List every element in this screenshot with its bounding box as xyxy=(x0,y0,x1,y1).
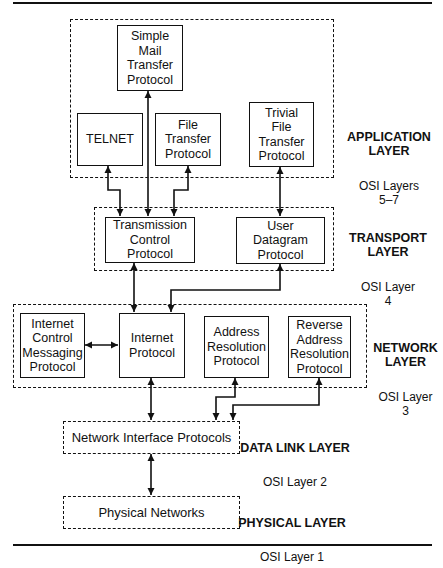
application-layer-osi: OSI Layers 5–7 xyxy=(336,179,442,207)
udp-node: User Datagram Protocol xyxy=(236,217,325,264)
network-layer-label: NETWORK LAYER OSI Layer 3 xyxy=(368,323,443,436)
ftp-node: File Transfer Protocol xyxy=(155,113,221,166)
tcp-node: Transmission Control Protocol xyxy=(105,217,195,263)
physical-networks-label: Physical Networks xyxy=(98,505,204,520)
physical-layer-title: PHYSICAL LAYER xyxy=(238,516,346,530)
network-layer-osi: OSI Layer 3 xyxy=(368,390,443,418)
datalink-layer-title: DATA LINK LAYER xyxy=(240,441,350,455)
network-layer-title: NETWORK LAYER xyxy=(368,341,443,369)
datalink-layer-label: DATA LINK LAYER OSI Layer 2 xyxy=(240,423,350,507)
datalink-layer-osi: OSI Layer 2 xyxy=(240,475,350,489)
physical-layer-osi: OSI Layer 1 xyxy=(238,550,346,564)
application-layer-label: APPLICATION LAYER OSI Layers 5–7 xyxy=(336,112,442,225)
transport-layer-osi: OSI Layer 4 xyxy=(334,280,442,308)
arp-node: Address Resolution Protocol xyxy=(204,316,269,378)
smtp-node: Simple Mail Transfer Protocol xyxy=(117,25,183,91)
ip-node: Internet Protocol xyxy=(119,313,185,378)
telnet-node: TELNET xyxy=(77,113,143,166)
transport-layer-label: TRANSPORT LAYER OSI Layer 4 xyxy=(334,213,442,326)
transport-layer-title: TRANSPORT LAYER xyxy=(334,231,442,259)
network-interface-protocols-node: Network Interface Protocols xyxy=(63,421,240,454)
physical-networks-node: Physical Networks xyxy=(63,496,240,529)
icmp-node: Internet Control Messaging Protocol xyxy=(20,313,85,378)
application-layer-title: APPLICATION LAYER xyxy=(336,130,442,158)
network-interface-protocols-label: Network Interface Protocols xyxy=(72,430,232,445)
physical-layer-label: PHYSICAL LAYER OSI Layer 1 xyxy=(238,498,346,568)
tftp-node: Trivial File Transfer Protocol xyxy=(249,102,314,167)
